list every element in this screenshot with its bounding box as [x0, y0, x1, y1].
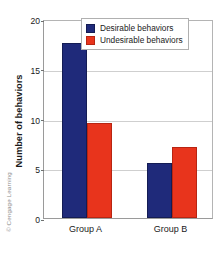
legend-swatch-desirable-icon	[86, 24, 95, 33]
bar-group-a-desirable-behaviors	[62, 43, 87, 218]
legend-item-desirable: Desirable behaviors	[86, 22, 183, 34]
y-axis-tick-label: 5	[18, 165, 44, 175]
bar-group-a-undesirable-behaviors	[87, 123, 112, 218]
legend-swatch-undesirable-icon	[86, 36, 95, 45]
legend-label-desirable: Desirable behaviors	[100, 22, 173, 34]
legend-item-undesirable: Undesirable behaviors	[86, 34, 183, 46]
y-axis-tick-label: 0	[18, 215, 44, 225]
bar-group-b-undesirable-behaviors	[172, 147, 197, 218]
y-axis-tick-label: 20	[18, 16, 44, 26]
chart-legend: Desirable behaviors Undesirable behavior…	[81, 18, 189, 50]
bar-group-b-desirable-behaviors	[147, 163, 172, 218]
x-axis-tick-label: Group B	[131, 223, 211, 235]
y-axis-tick-label: 15	[18, 66, 44, 76]
y-axis-tick-label: 10	[18, 116, 44, 126]
x-axis-tick-label: Group A	[46, 223, 126, 235]
legend-label-undesirable: Undesirable behaviors	[100, 34, 183, 46]
